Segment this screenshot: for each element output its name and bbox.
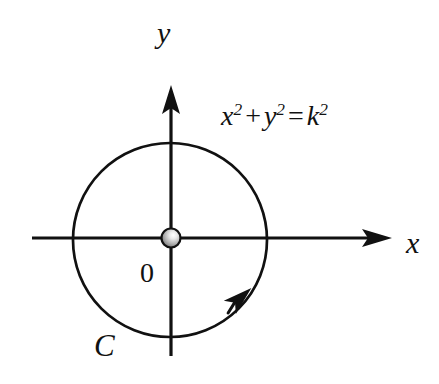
origin-label: 0 xyxy=(140,259,154,287)
equation-plus-operator: + xyxy=(242,100,264,131)
x-axis-label: x xyxy=(406,228,419,258)
equation-x-exponent: 2 xyxy=(233,100,242,119)
curve-label-c: C xyxy=(94,330,115,361)
diagram-svg xyxy=(0,0,439,384)
circle-equation: x2+y2=k2 xyxy=(221,101,328,130)
equation-equals-operator: = xyxy=(285,100,307,131)
equation-k-base: k xyxy=(307,100,319,131)
equation-x-base: x xyxy=(221,100,233,131)
equation-k-exponent: 2 xyxy=(319,100,328,119)
figure-canvas: y x 0 C x2+y2=k2 xyxy=(0,0,439,384)
sphere-marker-origin xyxy=(162,229,181,248)
equation-y-exponent: 2 xyxy=(276,100,285,119)
orientation-arrowhead-icon xyxy=(220,281,257,317)
equation-y-base: y xyxy=(264,100,276,131)
y-axis-label: y xyxy=(157,18,170,48)
